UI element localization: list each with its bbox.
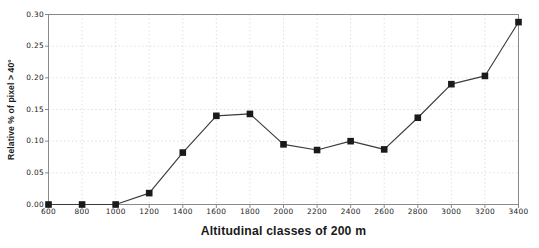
gridlines — [49, 15, 519, 205]
data-point-marker — [280, 141, 287, 148]
y-tick-label: 0.25 — [16, 41, 44, 50]
data-point-marker — [347, 138, 354, 145]
data-point-marker — [414, 114, 421, 121]
data-point-marker — [146, 190, 153, 197]
data-point-marker — [381, 146, 388, 153]
data-point-marker — [179, 149, 186, 156]
data-point-marker — [247, 111, 254, 118]
data-point-marker — [213, 113, 220, 120]
y-tick-label: 0.15 — [16, 105, 44, 114]
y-tick-label: 0.30 — [16, 10, 44, 19]
x-tick-label: 3400 — [499, 207, 539, 216]
y-tick-label: 0.10 — [16, 136, 44, 145]
y-tick-label: 0.20 — [16, 73, 44, 82]
altitudinal-line-chart: Relative % of pixel > 40° 0.000.050.100.… — [0, 0, 539, 248]
data-point-marker — [314, 147, 321, 154]
data-point-marker — [515, 19, 522, 26]
data-point-marker — [482, 73, 489, 80]
x-axis-title: Altitudinal classes of 200 m — [48, 224, 519, 238]
data-point-marker — [448, 81, 455, 88]
y-tick-label: 0.05 — [16, 168, 44, 177]
